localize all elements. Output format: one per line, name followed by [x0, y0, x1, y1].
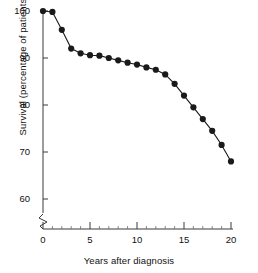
data-point [162, 71, 168, 77]
data-point [87, 52, 93, 58]
survival-curve-markers [40, 8, 234, 165]
data-point [153, 67, 159, 73]
x-axis-ticks [43, 222, 231, 229]
data-point [200, 116, 206, 122]
data-point [125, 60, 131, 66]
survival-curve-line [43, 11, 231, 161]
data-point [143, 64, 149, 70]
data-point [68, 46, 74, 52]
plot-svg [0, 0, 258, 273]
y-axis [39, 9, 48, 229]
y-axis-ticks [43, 11, 48, 199]
data-point [96, 53, 102, 59]
data-point [219, 142, 225, 148]
survival-chart-figure: Survival (percentage of patients) Years … [0, 0, 258, 273]
data-point [59, 27, 65, 33]
data-point [172, 81, 178, 87]
data-point [49, 9, 55, 15]
data-point [228, 158, 234, 164]
data-point [181, 93, 187, 99]
data-point [134, 61, 140, 67]
data-point [40, 8, 46, 14]
data-point [209, 128, 215, 134]
data-point [190, 104, 196, 110]
data-point [78, 50, 84, 56]
x-axis [43, 222, 233, 229]
data-point [115, 57, 121, 63]
data-point [106, 55, 112, 61]
